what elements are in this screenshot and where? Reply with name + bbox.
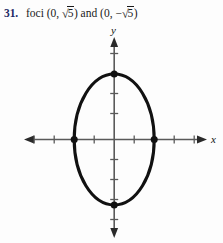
problem-suffix: ) <box>134 7 138 19</box>
vertex-point-left <box>71 136 78 143</box>
x-axis-label: x <box>210 133 216 145</box>
vertex-point-bottom <box>111 202 118 209</box>
y-axis-label: y <box>110 24 116 36</box>
x-axis-arrow-left <box>24 136 34 144</box>
coordinate-graph: x y <box>0 20 223 243</box>
x-axis <box>24 136 207 144</box>
vertex-point-right <box>151 136 158 143</box>
y-axis-arrow-up <box>110 37 118 47</box>
y-axis-arrow-down <box>110 228 118 238</box>
radicand-2: 5 <box>127 6 134 19</box>
radicand-1: 5 <box>67 6 74 19</box>
figure-page: 31. foci (0, √5) and (0, −√5) <box>0 0 223 243</box>
problem-middle: ) and (0, − <box>74 7 122 19</box>
vertex-point-top <box>111 71 118 78</box>
problem-number: 31. <box>4 7 18 19</box>
problem-prefix: foci (0, <box>26 7 62 19</box>
x-axis-arrow-right <box>197 136 207 144</box>
